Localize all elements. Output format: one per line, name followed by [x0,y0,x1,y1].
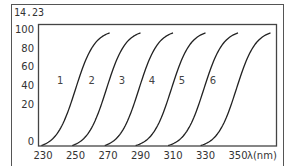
x-tick-label: 330 [196,150,215,161]
series-curve-6 [201,33,271,146]
x-tick-label: 310 [163,150,182,161]
series-curve-1 [41,33,109,146]
x-axis-ticks: 230250270290310330350 [33,150,247,161]
x-tick-label: 250 [66,150,85,161]
curve-label-4: 4 [149,75,155,86]
curve-labels: 123456 [57,75,216,86]
series-curves [41,33,270,146]
x-tick-label: 230 [33,150,52,161]
y-tick-label: 80 [21,43,34,54]
y-tick-label: 0 [28,136,34,147]
curve-label-1: 1 [57,75,63,86]
series-curve-2 [72,33,140,146]
series-curve-5 [168,33,238,146]
x-tick-label: 290 [131,150,150,161]
curve-label-2: 2 [89,75,95,86]
x-tick-label: 270 [98,150,117,161]
y-tick-label: 60 [21,61,34,72]
chart: 020406080100 230250270290310330350 12345… [0,0,293,166]
y-tick-label: 20 [21,99,34,110]
curve-label-5: 5 [179,75,185,86]
series-curve-4 [136,33,206,146]
y-tick-label: 100 [15,24,34,35]
x-tick-label: 350 [228,150,247,161]
plot-area [39,25,277,147]
y-tick-label: 40 [21,80,34,91]
x-axis-label: λ(nm) [247,150,277,161]
series-curve-3 [105,33,173,146]
y-axis-ticks: 020406080100 [15,24,34,147]
curve-label-3: 3 [119,75,125,86]
curve-label-6: 6 [210,75,216,86]
